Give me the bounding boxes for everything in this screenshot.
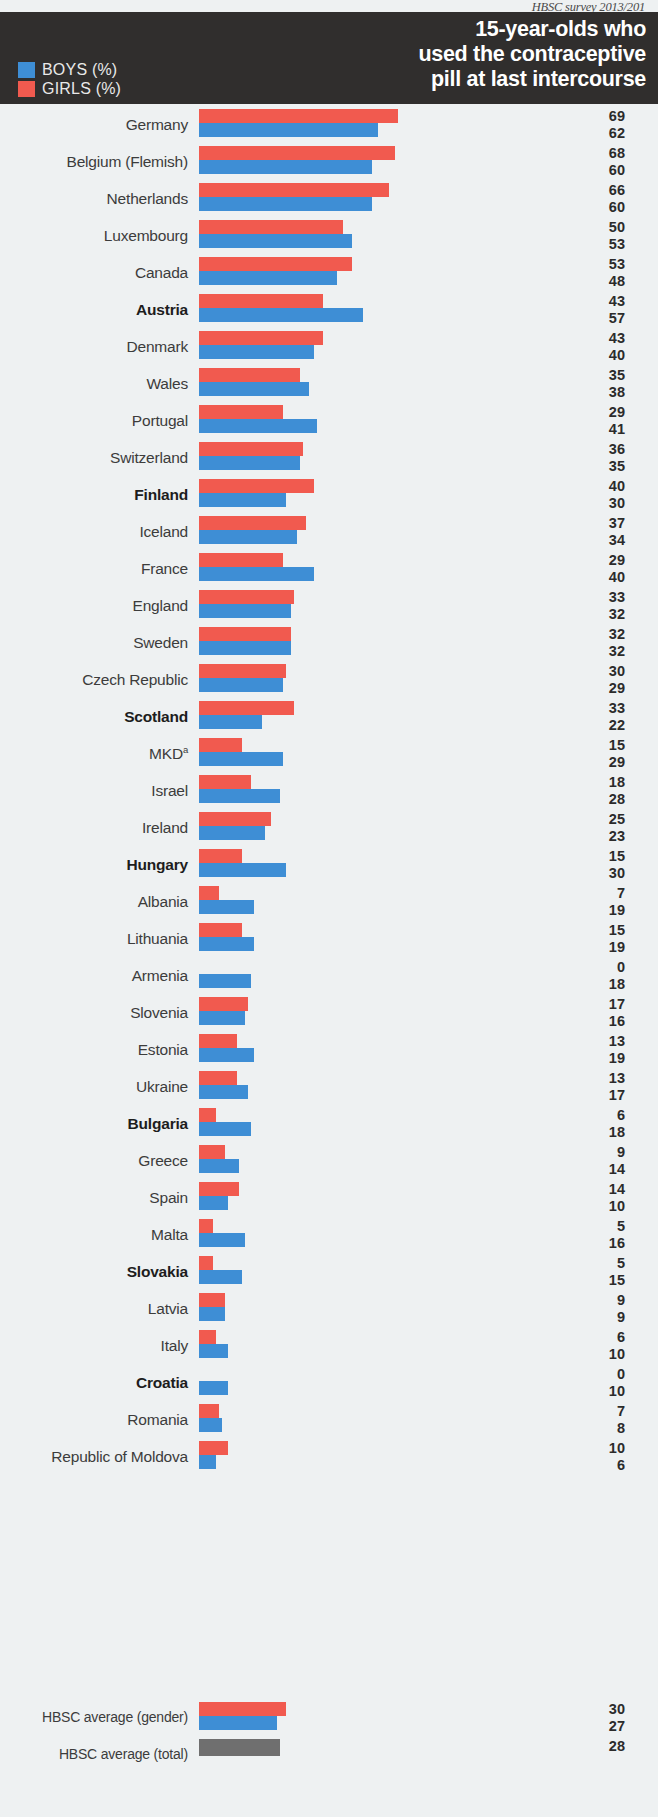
bar-group [199, 257, 352, 285]
value-pair: 106 [565, 1441, 625, 1473]
value-girls: 40 [565, 479, 625, 494]
bar-boys [199, 530, 297, 544]
value-pair: 5053 [565, 220, 625, 252]
value-pair: 3322 [565, 701, 625, 733]
value-girls: 13 [565, 1071, 625, 1086]
value-pair: 610 [565, 1330, 625, 1362]
legend-label-girls: GIRLS (%) [42, 80, 121, 97]
bar-boys [199, 715, 262, 729]
bar-girls [199, 368, 300, 382]
value-pair: 3538 [565, 368, 625, 400]
bar-group [199, 479, 314, 507]
value-pair: 4030 [565, 479, 625, 511]
value-boys: 16 [565, 1014, 625, 1029]
bar-boys [199, 123, 378, 137]
country-label: Switzerland [0, 445, 188, 470]
value-boys: 8 [565, 1421, 625, 1436]
bar-girls [199, 1702, 286, 1716]
legend-item-girls: GIRLS (%) [18, 79, 121, 98]
chart-row: Republic of Moldova106 [0, 1438, 658, 1475]
chart-row: Netherlands6660 [0, 180, 658, 217]
value-pair: 1716 [565, 997, 625, 1029]
header-band: 15-year-olds who used the contraceptive … [0, 12, 658, 104]
value-pair: 4357 [565, 294, 625, 326]
bar-girls [199, 664, 286, 678]
bar-group [199, 1367, 228, 1395]
chart-row: Hungary1530 [0, 846, 658, 883]
country-label: Armenia [0, 963, 188, 988]
country-label: Scotland [0, 704, 188, 729]
value-boys: 57 [565, 311, 625, 326]
country-label: Republic of Moldova [0, 1444, 188, 1469]
value-girls: 33 [565, 590, 625, 605]
value-boys: 22 [565, 718, 625, 733]
value-total: 28 [565, 1739, 625, 1754]
bar-girls [199, 220, 343, 234]
bar-girls [199, 1034, 237, 1048]
value-girls: 5 [565, 1219, 625, 1234]
chart-row: Luxembourg5053 [0, 217, 658, 254]
bar-boys [199, 271, 337, 285]
value-girls: 15 [565, 738, 625, 753]
bar-boys [199, 493, 286, 507]
chart-row: Wales3538 [0, 365, 658, 402]
country-label: Israel [0, 778, 188, 803]
country-label: Greece [0, 1148, 188, 1173]
bar-group [199, 1071, 248, 1099]
footnote-marker: a [183, 744, 188, 755]
value-pair: 5348 [565, 257, 625, 289]
title-line-1: 15-year-olds who [216, 17, 646, 42]
bar-group [199, 405, 317, 433]
chart-row: Denmark4340 [0, 328, 658, 365]
chart-row: Portugal2941 [0, 402, 658, 439]
bar-girls [199, 1330, 216, 1344]
chart-row: Slovakia515 [0, 1253, 658, 1290]
bar-girls [199, 405, 283, 419]
value-girls: 9 [565, 1145, 625, 1160]
chart-row: Czech Republic3029 [0, 661, 658, 698]
value-boys: 40 [565, 348, 625, 363]
bar-girls [199, 294, 323, 308]
bar-boys [199, 863, 286, 877]
legend-label-boys: BOYS (%) [42, 61, 117, 78]
country-label: Bulgaria [0, 1111, 188, 1136]
country-label: Germany [0, 112, 188, 137]
bar-group [199, 812, 271, 840]
value-boys: 23 [565, 829, 625, 844]
bar-group [199, 1256, 242, 1284]
value-girls: 69 [565, 109, 625, 124]
bar-boys [199, 937, 254, 951]
value-boys: 30 [565, 496, 625, 511]
value-pair: 515 [565, 1256, 625, 1288]
chart-row: Malta516 [0, 1216, 658, 1253]
bar-group [199, 1330, 228, 1358]
value-boys: 60 [565, 200, 625, 215]
bar-boys [199, 308, 363, 322]
country-label: MKDa [0, 741, 188, 766]
value-boys: 29 [565, 681, 625, 696]
value-boys: 18 [565, 1125, 625, 1140]
country-label: Slovenia [0, 1000, 188, 1025]
value-boys: 18 [565, 977, 625, 992]
value-boys: 40 [565, 570, 625, 585]
value-pair: 6860 [565, 146, 625, 178]
bar-group [199, 183, 389, 211]
country-label: Austria [0, 297, 188, 322]
bar-group [199, 627, 291, 655]
bar-group [199, 1702, 286, 1730]
country-label: Canada [0, 260, 188, 285]
country-label: Latvia [0, 1296, 188, 1321]
chart-row: Austria4357 [0, 291, 658, 328]
bar-girls [199, 146, 395, 160]
value-girls: 37 [565, 516, 625, 531]
value-girls: 33 [565, 701, 625, 716]
value-pair: 1529 [565, 738, 625, 770]
value-boys: 30 [565, 866, 625, 881]
value-boys: 62 [565, 126, 625, 141]
chart-row: Latvia99 [0, 1290, 658, 1327]
country-label: Spain [0, 1185, 188, 1210]
value-boys: 34 [565, 533, 625, 548]
bar-group [199, 109, 398, 137]
value-pair: 99 [565, 1293, 625, 1325]
country-label: Finland [0, 482, 188, 507]
